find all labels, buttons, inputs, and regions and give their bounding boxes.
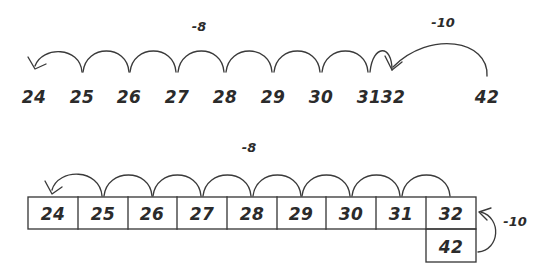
top-hop-arc-4 (178, 51, 224, 72)
bottom-minus-ten-label: -10 (503, 214, 527, 229)
top-tick-32: 32 (381, 87, 405, 107)
bottom-cell-28: 28 (240, 204, 264, 224)
top-hop-arcs (35, 51, 392, 72)
bottom-minus-eight-label: -8 (242, 140, 256, 155)
bottom-hop-arc-3 (153, 175, 201, 196)
bottom-cell-27: 27 (190, 204, 214, 224)
bottom-cell-42: 42 (438, 237, 463, 257)
bottom-cell-25: 25 (91, 204, 115, 224)
bottom-minus-ten-arc (478, 212, 496, 252)
top-minus-eight-label: -8 (192, 19, 206, 34)
bottom-hop-arc-4 (203, 175, 251, 196)
bottom-cell-26: 26 (140, 204, 164, 224)
top-hop-arc-7 (322, 51, 368, 72)
bottom-hop-arcs (52, 174, 450, 196)
bottom-hop-arc-7 (352, 175, 400, 196)
top-tick-29: 29 (261, 87, 285, 107)
top-tick-26: 26 (117, 87, 141, 107)
top-hop-arc-3 (130, 51, 176, 72)
top-hop-arc-1 (35, 52, 82, 72)
top-tick-27: 27 (165, 87, 189, 107)
bottom-cell-30: 30 (339, 204, 363, 224)
top-minus-ten-label: -10 (431, 15, 455, 30)
top-hop-arc-8 (370, 51, 392, 72)
top-number-line-panel: -8 -10 24 25 26 27 28 29 30 31 32 42 (22, 15, 499, 107)
top-tick-24: 24 (22, 87, 46, 107)
bottom-cell-29: 29 (289, 204, 313, 224)
bottom-hop-arc-2 (104, 175, 152, 196)
bottom-hop-arc-1 (52, 174, 102, 196)
top-hop-arc-6 (274, 51, 320, 72)
bottom-cell-32: 32 (439, 204, 463, 224)
top-tick-42: 42 (474, 87, 499, 107)
bottom-hop-arc-6 (302, 175, 350, 196)
top-hop-arc-2 (83, 51, 129, 72)
bottom-number-track-panel: -8 24 25 26 27 28 29 30 31 32 42 -10 (28, 140, 527, 262)
top-tick-25: 25 (70, 87, 94, 107)
bottom-hop-arc-8 (402, 175, 450, 196)
top-tick-31: 31 (357, 87, 381, 107)
top-arrowhead-to-32-glyph (385, 56, 402, 70)
bottom-cell-31: 31 (389, 204, 413, 224)
top-minus-ten-arc (393, 44, 487, 76)
math-diagram: -8 -10 24 25 26 27 28 29 30 31 32 42 -8 (0, 0, 554, 278)
top-tick-28: 28 (213, 87, 237, 107)
top-hop-arc-5 (226, 51, 272, 72)
top-tick-30: 30 (309, 87, 333, 107)
bottom-hop-arc-5 (253, 175, 301, 196)
bottom-cell-24: 24 (41, 204, 65, 224)
